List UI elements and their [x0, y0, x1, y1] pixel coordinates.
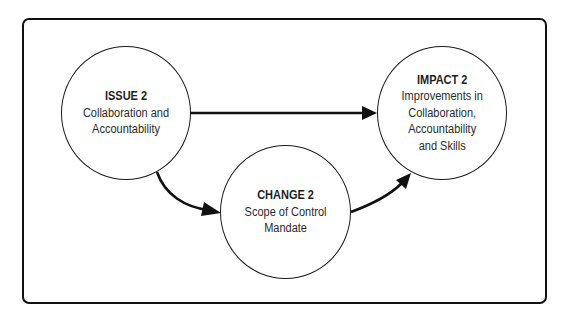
node-change-line: Scope of Control	[245, 204, 327, 221]
node-change-line: Mandate	[245, 220, 327, 237]
node-impact: IMPACT 2 Improvements in Collaboration, …	[377, 46, 507, 180]
node-issue: ISSUE 2 Collaboration and Accountability	[61, 46, 191, 180]
node-change: CHANGE 2 Scope of Control Mandate	[220, 145, 351, 279]
node-impact-title: IMPACT 2	[401, 72, 482, 89]
node-impact-line: Improvements in	[401, 88, 482, 105]
node-impact-line: Collaboration,	[401, 105, 482, 122]
node-change-title: CHANGE 2	[245, 187, 327, 204]
node-issue-title: ISSUE 2	[83, 88, 169, 105]
node-issue-line: Collaboration and	[83, 105, 169, 122]
node-impact-line: and Skills	[401, 138, 482, 155]
arrow-change-to-impact	[351, 183, 402, 212]
arrow-issue-to-change	[157, 172, 208, 210]
node-impact-line: Accountability	[401, 121, 482, 138]
arrowhead-issue-to-impact	[362, 106, 377, 120]
arrowhead-issue-to-change	[201, 202, 221, 216]
node-issue-line: Accountability	[83, 121, 169, 138]
